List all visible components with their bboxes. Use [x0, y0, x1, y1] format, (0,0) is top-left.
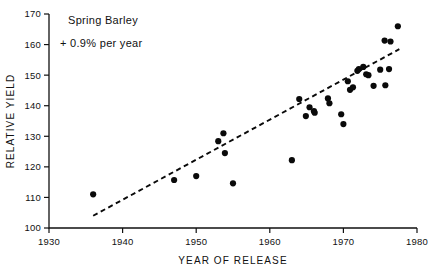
data-point: [382, 82, 388, 88]
y-tick-label-150: 150: [25, 70, 41, 81]
data-point: [220, 130, 226, 136]
data-point: [312, 110, 318, 116]
scatter-plot: 1001101201301401501601701930194019501960…: [0, 0, 443, 271]
y-axis-title: RELATIVE YIELD: [5, 74, 16, 169]
data-point: [365, 72, 371, 78]
y-tick-label-160: 160: [25, 39, 41, 50]
data-point: [193, 173, 199, 179]
x-tick-label-1930: 1930: [38, 236, 60, 247]
data-point: [338, 111, 344, 117]
data-point: [289, 157, 295, 163]
y-tick-label-130: 130: [25, 131, 41, 142]
data-point: [215, 138, 221, 144]
x-tick-label-1950: 1950: [185, 236, 207, 247]
data-point: [340, 121, 346, 127]
data-point: [395, 23, 401, 29]
x-tick-label-1970: 1970: [332, 236, 354, 247]
data-point: [326, 100, 332, 106]
data-point: [387, 38, 393, 44]
y-tick-label-140: 140: [25, 100, 41, 111]
x-axis-title: YEAR OF RELEASE: [178, 255, 287, 266]
data-point: [377, 67, 383, 73]
data-point: [171, 177, 177, 183]
y-tick-label-110: 110: [25, 192, 41, 203]
y-tick-label-170: 170: [25, 8, 41, 19]
x-tick-label-1960: 1960: [259, 236, 281, 247]
data-point: [350, 84, 356, 90]
data-point: [382, 38, 388, 44]
chart-container: 1001101201301401501601701930194019501960…: [0, 0, 443, 271]
data-point: [370, 83, 376, 89]
data-point: [222, 150, 228, 156]
annotation-crop-name: Spring Barley: [68, 14, 138, 26]
x-tick-label-1980: 1980: [406, 236, 428, 247]
data-point: [360, 64, 366, 70]
data-point: [296, 96, 302, 102]
data-point: [345, 78, 351, 84]
data-point: [230, 180, 236, 186]
data-point: [303, 113, 309, 119]
y-tick-label-100: 100: [25, 222, 41, 233]
annotation-trend-rate: + 0.9% per year: [60, 37, 142, 49]
x-tick-label-1940: 1940: [112, 236, 134, 247]
trend-line: [93, 49, 399, 216]
data-point: [90, 191, 96, 197]
data-point: [386, 66, 392, 72]
y-tick-label-120: 120: [25, 161, 41, 172]
